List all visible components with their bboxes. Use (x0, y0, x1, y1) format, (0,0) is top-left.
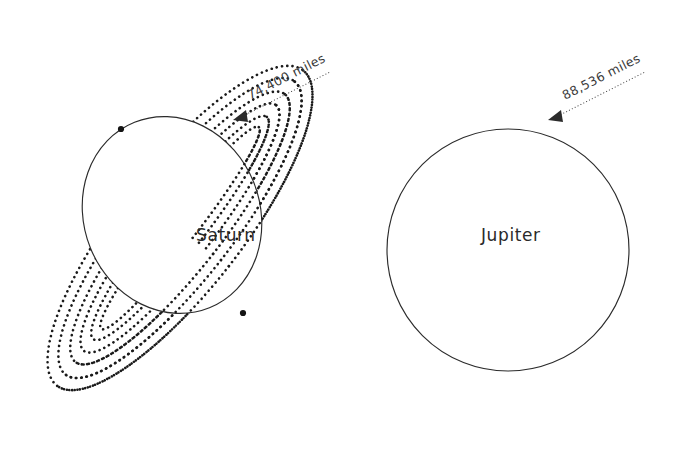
jupiter-label: Jupiter (480, 225, 541, 245)
jupiter-limb-shading (0, 0, 679, 450)
planet-comparison-figure: Saturn 74,400 miles Jupiter 88,536 miles (0, 0, 679, 450)
jupiter-group: Jupiter 88,536 miles (0, 0, 679, 450)
